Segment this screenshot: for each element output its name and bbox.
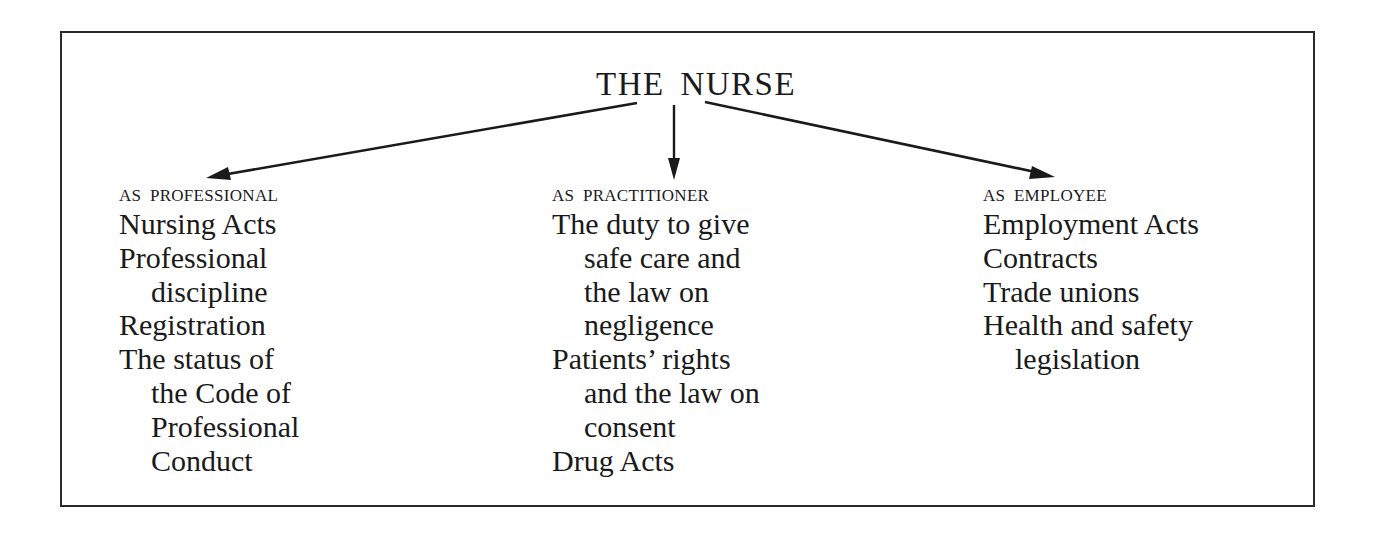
column-heading-employee: AS EMPLOYEE	[983, 186, 1199, 206]
practitioner-topic-list: The duty to give safe care and the law o…	[552, 207, 760, 477]
item-line-continuation: discipline	[119, 275, 299, 309]
item-line: Patients’ rights	[552, 342, 760, 376]
column-employee: AS EMPLOYEE Employment Acts Contracts Tr…	[983, 186, 1199, 376]
item-line: Health and safety	[983, 308, 1199, 342]
list-item: Registration	[119, 308, 299, 342]
item-line-continuation: the law on	[552, 275, 760, 309]
item-line-continuation: and the law on	[552, 376, 760, 410]
column-heading-professional: AS PROFESSIONAL	[119, 186, 299, 206]
list-item: The status of the Code of Professional C…	[119, 342, 299, 477]
item-line-continuation: consent	[552, 410, 760, 444]
professional-topic-list: Nursing Acts Professional discipline Reg…	[119, 207, 299, 477]
item-line-continuation: legislation	[983, 342, 1199, 376]
list-item: Employment Acts	[983, 207, 1199, 241]
item-line: The status of	[119, 342, 299, 376]
diagram-title: THE NURSE	[596, 66, 796, 102]
list-item: Drug Acts	[552, 444, 760, 478]
list-item: Trade unions	[983, 275, 1199, 309]
item-line: Registration	[119, 308, 299, 342]
item-line-continuation: Professional	[119, 410, 299, 444]
item-line: The duty to give	[552, 207, 760, 241]
employee-topic-list: Employment Acts Contracts Trade unions H…	[983, 207, 1199, 376]
item-line: Employment Acts	[983, 207, 1199, 241]
item-line-continuation: negligence	[552, 308, 760, 342]
list-item: Patients’ rights and the law on consent	[552, 342, 760, 443]
list-item: The duty to give safe care and the law o…	[552, 207, 760, 342]
list-item: Contracts	[983, 241, 1199, 275]
item-line-continuation: the Code of	[119, 376, 299, 410]
column-heading-practitioner: AS PRACTITIONER	[552, 186, 760, 206]
item-line: Trade unions	[983, 275, 1199, 309]
item-line: Nursing Acts	[119, 207, 299, 241]
list-item: Health and safety legislation	[983, 308, 1199, 376]
column-professional: AS PROFESSIONAL Nursing Acts Professiona…	[119, 186, 299, 477]
item-line-continuation: safe care and	[552, 241, 760, 275]
item-line: Drug Acts	[552, 444, 760, 478]
column-practitioner: AS PRACTITIONER The duty to give safe ca…	[552, 186, 760, 477]
list-item: Nursing Acts	[119, 207, 299, 241]
list-item: Professional discipline	[119, 241, 299, 309]
item-line-continuation: Conduct	[119, 444, 299, 478]
item-line: Professional	[119, 241, 299, 275]
item-line: Contracts	[983, 241, 1199, 275]
